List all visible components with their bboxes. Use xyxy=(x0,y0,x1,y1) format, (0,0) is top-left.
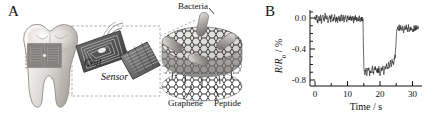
tooth-sensor-patch-icon xyxy=(27,43,62,68)
plot-axes xyxy=(310,10,422,86)
x-axis-label: Time / s xyxy=(350,101,383,112)
svg-text:30: 30 xyxy=(408,89,418,99)
svg-text:0: 0 xyxy=(313,89,318,99)
graphene-honeycomb-icon xyxy=(152,10,256,104)
figure-root: A xyxy=(0,0,434,114)
panel-b-plot: B R/R0 / % 0.0 -0.4 -0.8 xyxy=(262,0,434,114)
label-bacteria: Bacteria xyxy=(178,2,208,11)
svg-text:R/R0 / %: R/R0 / % xyxy=(273,39,288,75)
y-axis-label: R/R0 / % xyxy=(273,39,288,75)
svg-text:0.0: 0.0 xyxy=(295,13,307,23)
graphene-disc-illustration xyxy=(152,10,252,102)
panel-label-a: A xyxy=(8,4,19,19)
y-tick-labels: 0.0 -0.4 -0.8 xyxy=(292,13,307,85)
svg-text:-0.4: -0.4 xyxy=(292,44,307,54)
data-trace xyxy=(315,13,419,76)
x-tick-labels: 0 10 20 30 xyxy=(313,89,418,99)
response-chart: R/R0 / % 0.0 -0.4 -0.8 xyxy=(262,0,434,114)
svg-text:20: 20 xyxy=(376,89,386,99)
panel-a-schematic: A xyxy=(0,0,262,114)
label-sensor: Sensor xyxy=(101,72,128,82)
svg-text:-0.8: -0.8 xyxy=(292,75,307,85)
label-peptide: Peptide xyxy=(214,99,241,108)
svg-text:10: 10 xyxy=(343,89,353,99)
label-coil: Coil xyxy=(84,58,101,68)
label-graphene: Graphene xyxy=(168,99,203,108)
